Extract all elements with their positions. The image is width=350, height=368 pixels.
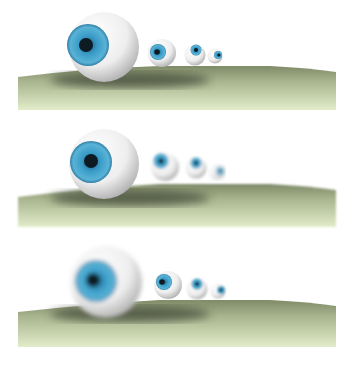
- eyeball-large: [69, 129, 139, 199]
- eyeballs-scene: [0, 240, 350, 368]
- eyeball-large: [70, 246, 142, 318]
- ground-plane: [18, 184, 336, 227]
- eyeballs-scene: [0, 0, 350, 120]
- shadow: [50, 190, 210, 206]
- render-panel-second-eye-focus: Focus on second eye: [0, 240, 350, 360]
- eyeball-4: [210, 165, 225, 180]
- render-panel-all-in-focus: All in focus: [0, 0, 350, 120]
- eyeball-2: [151, 153, 179, 181]
- render-panel-foreground-focus: Focus on large foreground eye: [0, 120, 350, 240]
- eyeball-3: [185, 45, 206, 66]
- eyeball-4: [211, 284, 226, 299]
- ground-plane: [18, 66, 336, 110]
- ground-plane: [18, 300, 336, 347]
- eyeballs-scene: [0, 120, 350, 240]
- eyeball-3: [186, 158, 207, 179]
- eyeball-2: [154, 271, 182, 299]
- image-stage: All in focus: [0, 0, 350, 368]
- eyeball-3: [187, 279, 208, 300]
- eyeball-2: [148, 39, 176, 67]
- shadow: [50, 72, 210, 88]
- eyeball-4: [208, 49, 223, 64]
